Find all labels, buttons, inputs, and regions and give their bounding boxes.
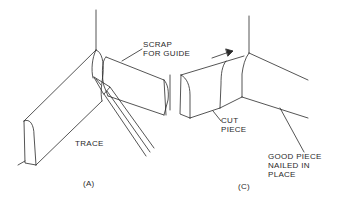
- scrap-for-guide-label: SCRAP FOR GUIDE: [143, 40, 190, 58]
- cut-piece-label: CUT PIECE: [221, 116, 247, 134]
- trace-label: TRACE: [75, 139, 104, 148]
- good-piece-leader-line: [280, 108, 304, 152]
- line-drawing: [0, 0, 340, 214]
- good-piece-label: GOOD PIECE NAILED IN PLACE: [268, 152, 322, 179]
- panel-c-caption: (C): [238, 182, 250, 191]
- coping-illustration: SCRAP FOR GUIDE TRACE (A) CUT PIECE GOOD…: [0, 0, 340, 214]
- arrow-right-icon: [212, 49, 233, 58]
- panel-a-caption: (A): [83, 179, 95, 188]
- cut-piece: [180, 56, 244, 121]
- good-piece: [242, 53, 308, 152]
- cut-piece-leader-line: [213, 111, 221, 121]
- scrap-leader-line: [122, 49, 142, 61]
- scrap-guide-piece: [102, 49, 168, 115]
